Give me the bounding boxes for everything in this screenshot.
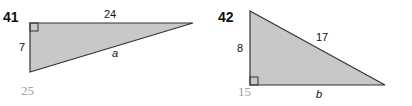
problem-number: 41 xyxy=(3,9,19,25)
right-triangle xyxy=(250,11,385,85)
side-label-hypotenuse: a xyxy=(112,47,118,59)
side-label-hypotenuse: 17 xyxy=(316,31,328,43)
side-label-top: 24 xyxy=(104,8,116,20)
side-label-left: 8 xyxy=(237,42,243,54)
problem-42: 42 8 17 b 15 xyxy=(218,9,385,100)
side-label-left: 7 xyxy=(19,41,25,53)
diagram-canvas: 41 24 7 a 25 42 8 17 b 15 xyxy=(0,0,412,106)
problem-number: 42 xyxy=(218,9,234,25)
side-label-bottom: b xyxy=(316,88,322,100)
problem-41: 41 24 7 a 25 xyxy=(3,8,193,98)
answer-text: 25 xyxy=(21,83,34,98)
answer-text: 15 xyxy=(238,84,251,99)
